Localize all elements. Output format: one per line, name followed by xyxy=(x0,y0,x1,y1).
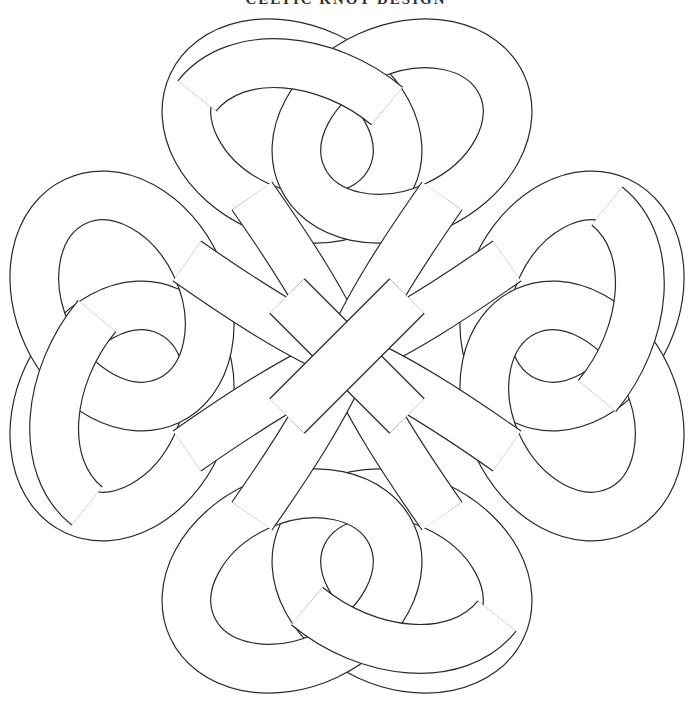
celtic-knot-artwork xyxy=(0,0,692,708)
